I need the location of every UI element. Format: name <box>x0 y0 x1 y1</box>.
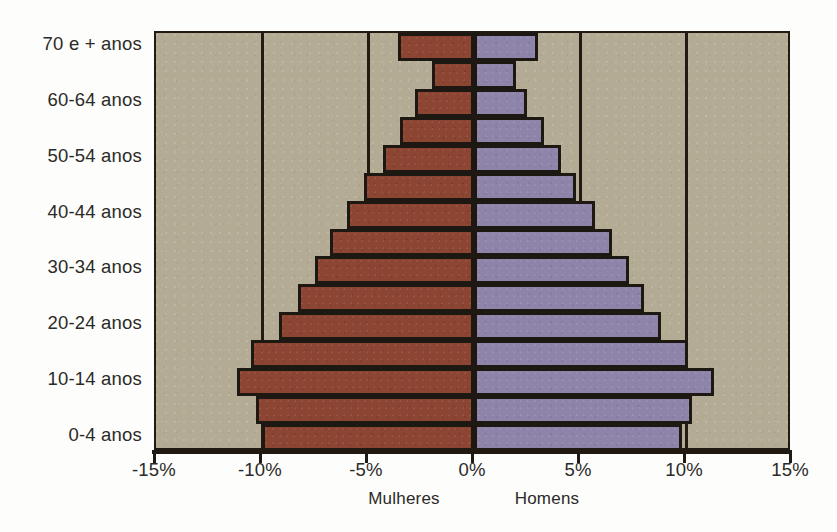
y-axis-label: 10-14 anos <box>0 370 142 389</box>
pyramid-band <box>156 368 788 396</box>
x-axis-tick-label: 5% <box>564 459 591 481</box>
bar-mulheres <box>415 89 474 117</box>
bar-homens <box>474 145 561 173</box>
bar-homens <box>474 173 576 201</box>
bar-mulheres <box>330 229 474 257</box>
pyramid-band <box>156 284 788 312</box>
x-axis-tick-label: -15% <box>132 459 176 481</box>
bar-mulheres <box>262 424 474 450</box>
y-axis-label: 30-34 anos <box>0 258 142 277</box>
bar-mulheres <box>400 117 474 145</box>
x-axis-tick-label: 0% <box>458 459 485 481</box>
pyramid-band <box>156 312 788 340</box>
bar-homens <box>474 117 544 145</box>
bar-mulheres <box>237 368 474 396</box>
pyramid-band <box>156 117 788 145</box>
pyramid-band <box>156 61 788 89</box>
y-axis-label: 50-54 anos <box>0 147 142 166</box>
bar-mulheres <box>383 145 474 173</box>
pyramid-band <box>156 33 788 61</box>
pyramid-band <box>156 173 788 201</box>
bar-homens <box>474 396 692 424</box>
pyramid-band <box>156 201 788 229</box>
x-axis-tick-label: 10% <box>665 459 703 481</box>
plot-area <box>154 31 790 450</box>
x-axis-tick-label: -5% <box>349 459 383 481</box>
pyramid-band <box>156 396 788 424</box>
y-axis-label: 70 e + anos <box>0 35 142 54</box>
bar-series-container <box>156 33 788 448</box>
bar-homens <box>474 229 612 257</box>
bar-homens <box>474 368 714 396</box>
y-axis-category-labels: 70 e + anos60-64 anos50-54 anos40-44 ano… <box>0 31 148 450</box>
population-pyramid-chart: 70 e + anos60-64 anos50-54 anos40-44 ano… <box>0 0 837 532</box>
y-axis-label: 20-24 anos <box>0 314 142 333</box>
pyramid-band <box>156 229 788 257</box>
pyramid-band <box>156 256 788 284</box>
bar-mulheres <box>256 396 474 424</box>
bar-homens <box>474 256 629 284</box>
bar-mulheres <box>364 173 474 201</box>
bar-homens <box>474 424 682 450</box>
bar-mulheres <box>251 340 474 368</box>
x-axis-tick-label: 15% <box>771 459 809 481</box>
x-axis-tick-label: -10% <box>238 459 282 481</box>
bar-mulheres <box>315 256 474 284</box>
bar-homens <box>474 312 661 340</box>
bar-homens <box>474 89 527 117</box>
bar-mulheres <box>347 201 474 229</box>
bar-mulheres <box>279 312 474 340</box>
bar-mulheres <box>432 61 474 89</box>
bar-homens <box>474 201 595 229</box>
bar-mulheres <box>298 284 474 312</box>
y-axis-label: 40-44 anos <box>0 203 142 222</box>
pyramid-band <box>156 340 788 368</box>
bar-mulheres <box>398 33 474 61</box>
bar-homens <box>474 340 688 368</box>
pyramid-band <box>156 424 788 450</box>
pyramid-band <box>156 89 788 117</box>
y-axis-label: 0-4 anos <box>0 426 142 445</box>
pyramid-band <box>156 145 788 173</box>
series-caption-homens: Homens <box>515 489 580 509</box>
y-axis-label: 60-64 anos <box>0 91 142 110</box>
bar-homens <box>474 33 538 61</box>
bar-homens <box>474 284 644 312</box>
series-caption-mulheres: Mulheres <box>368 489 440 509</box>
bar-homens <box>474 61 516 89</box>
